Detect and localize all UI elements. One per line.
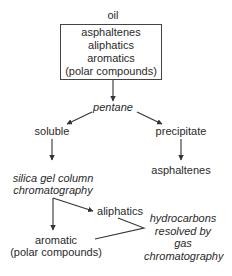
analysis-label-line2: resolved by: [146, 225, 220, 238]
analysis-label-line3: gas: [146, 237, 220, 250]
oil-composition-box: asphaltenes aliphatics aromatics (polar …: [60, 24, 162, 80]
silica-gel-label-line2: chromatography: [8, 184, 98, 197]
aliphatics-fraction-label: aliphatics: [94, 205, 146, 218]
soluble-label: soluble: [30, 125, 74, 138]
analysis-label-line4: chromatography: [144, 250, 222, 263]
aromatic-fraction-label-line1: aromatic: [8, 234, 104, 247]
precipitate-label: precipitate: [150, 125, 212, 138]
asphaltenes-product-label: asphaltenes: [148, 164, 214, 177]
box-line-aromatics: aromatics: [61, 52, 161, 65]
analysis-label-line1: hydrocarbons: [146, 212, 220, 225]
box-line-polar: (polar compounds): [61, 65, 161, 78]
aromatic-fraction-label-line2: (polar compounds): [8, 246, 104, 259]
box-line-asphaltenes: asphaltenes: [61, 26, 161, 39]
pentane-label: pentane: [90, 101, 136, 114]
box-line-aliphatics: aliphatics: [61, 39, 161, 52]
silica-gel-label-line1: silica gel column: [8, 172, 98, 185]
oil-label: oil: [100, 9, 126, 22]
